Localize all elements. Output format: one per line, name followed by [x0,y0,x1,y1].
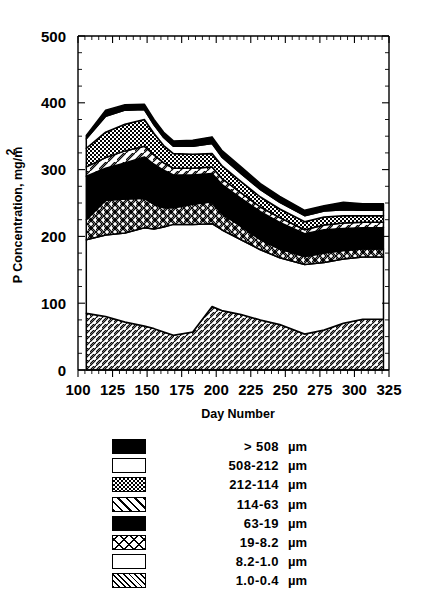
x-tick-label: 150 [135,381,160,398]
legend-item-units: µm [283,439,322,454]
y-tick-label: 0 [58,362,66,379]
legend-item: 19-8.2µm [112,533,322,552]
y-axis-title: P Concentration, mg/m [11,147,25,284]
legend-item-label: 508-212 [146,458,283,473]
legend-item-units: µm [283,516,322,531]
legend-item-units: µm [283,554,322,569]
x-tick-label: 275 [307,381,332,398]
y-axis-title-superscript: 2 [4,148,18,155]
legend-item: 1.0-0.4µm [112,571,322,590]
legend-item-units: µm [283,535,322,550]
y-tick-label: 300 [41,161,66,178]
legend-item-units: µm [283,477,322,492]
x-tick-label: 125 [100,381,125,398]
figure-container: 0100200300400500100125150175200225250275… [0,0,434,605]
legend-swatch-solid-black [112,516,146,531]
chart-legend: > 508µm508-212µm212-114µm114-63µm63-19µm… [0,437,434,591]
legend-swatch-diamond-crosshatch [112,535,146,550]
legend-item: 8.2-1.0µm [112,552,322,571]
legend-swatch-fine-checker [112,477,146,492]
x-axis-title: Day Number [201,407,275,421]
stacked-area-chart: 0100200300400500100125150175200225250275… [0,0,434,430]
legend-item-label: 114-63 [146,497,283,512]
legend-rows: > 508µm508-212µm212-114µm114-63µm63-19µm… [112,437,322,591]
legend-swatch-white [112,554,146,569]
chart-bands [86,104,383,370]
x-tick-label: 225 [238,381,263,398]
legend-swatch-solid-black [112,439,146,454]
legend-swatch-white [112,458,146,473]
legend-item-units: µm [283,458,322,473]
legend-item-label: 63-19 [146,516,283,531]
legend-item: 508-212µm [112,456,322,475]
x-tick-label: 300 [342,381,367,398]
legend-swatch-diagonal-hatch-dense [112,573,146,588]
chart-plot-area: 0100200300400500100125150175200225250275… [0,0,434,430]
legend-item: 114-63µm [112,495,322,514]
legend-item: 63-19µm [112,514,322,533]
legend-swatch-diagonal-stripes [112,497,146,512]
x-tick-label: 200 [204,381,229,398]
y-tick-label: 100 [41,295,66,312]
legend-item-units: µm [283,497,322,512]
legend-item-label: 1.0-0.4 [146,573,283,588]
legend-item-label: 19-8.2 [146,535,283,550]
y-tick-label: 400 [41,94,66,111]
legend-item: > 508µm [112,437,322,456]
legend-item-units: µm [283,573,322,588]
legend-item-label: 8.2-1.0 [146,554,283,569]
x-tick-label: 175 [169,381,194,398]
legend-item-label: 212-114 [146,477,283,492]
x-tick-label: 250 [273,381,298,398]
x-tick-label: 100 [65,381,90,398]
x-tick-label: 325 [376,381,401,398]
legend-item: 212-114µm [112,475,322,494]
y-tick-label: 500 [41,28,66,45]
y-tick-label: 200 [41,228,66,245]
legend-item-label: > 508 [146,439,283,454]
